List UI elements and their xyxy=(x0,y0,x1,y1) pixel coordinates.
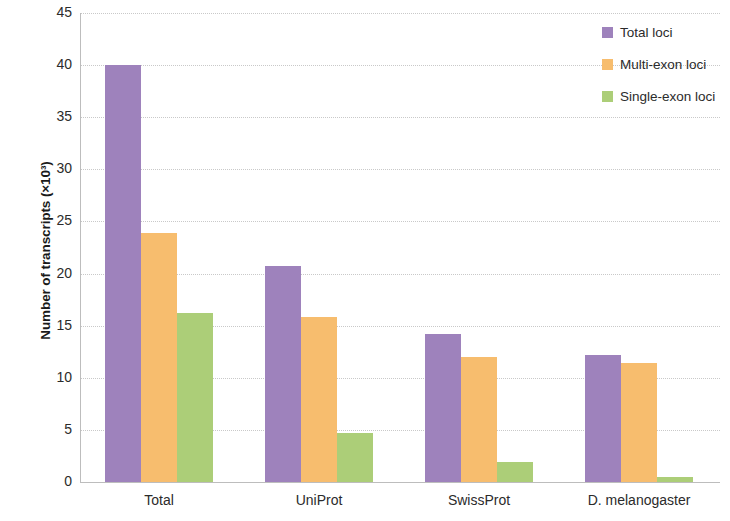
legend-swatch-icon xyxy=(602,27,613,38)
x-axis-tick-label: SwissProt xyxy=(448,492,510,508)
legend-entry: Multi-exon loci xyxy=(602,48,730,80)
bar xyxy=(301,317,337,482)
bar-group xyxy=(265,13,373,482)
x-axis-tick-label: UniProt xyxy=(296,492,343,508)
y-axis-tick-label: 5 xyxy=(8,421,72,437)
bar xyxy=(425,334,461,482)
bar-chart: Number of transcripts (×10³) 45403530252… xyxy=(0,0,730,521)
bar-group xyxy=(425,13,533,482)
y-axis-tick-label: 40 xyxy=(8,56,72,72)
x-axis-tick-label: Total xyxy=(144,492,174,508)
y-axis-line xyxy=(80,13,81,482)
y-axis-tick-label: 30 xyxy=(8,160,72,176)
bar xyxy=(105,65,141,482)
legend-entry: Total loci xyxy=(602,16,730,48)
bar xyxy=(177,313,213,482)
bar-group xyxy=(105,13,213,482)
legend-swatch-icon xyxy=(602,91,613,102)
y-axis-tick-label: 15 xyxy=(8,317,72,333)
x-axis-baseline xyxy=(80,482,720,483)
bar xyxy=(337,433,373,482)
bar xyxy=(265,266,301,482)
legend-swatch-icon xyxy=(602,59,613,70)
bar xyxy=(621,363,657,482)
legend-entry: Single-exon loci xyxy=(602,80,730,112)
legend-label: Total loci xyxy=(620,25,673,40)
bar xyxy=(657,477,693,482)
bar xyxy=(141,233,177,482)
legend-label: Single-exon loci xyxy=(620,89,715,104)
y-axis-tick-label: 25 xyxy=(8,212,72,228)
x-axis-tick-labels: TotalUniProtSwissProtD. melanogaster xyxy=(80,492,720,520)
bar xyxy=(461,357,497,482)
bar xyxy=(585,355,621,482)
x-axis-tick-label: D. melanogaster xyxy=(588,492,691,508)
y-axis-tick-label: 35 xyxy=(8,108,72,124)
y-axis-tick-label: 45 xyxy=(8,4,72,20)
y-axis-tick-label: 10 xyxy=(8,369,72,385)
y-axis-tick-labels: 454035302520151050 xyxy=(0,13,72,482)
legend-label: Multi-exon loci xyxy=(620,57,706,72)
y-axis-tick-label: 0 xyxy=(8,473,72,489)
chart-legend: Total lociMulti-exon lociSingle-exon loc… xyxy=(602,16,730,112)
bar xyxy=(497,462,533,482)
y-axis-tick-label: 20 xyxy=(8,265,72,281)
